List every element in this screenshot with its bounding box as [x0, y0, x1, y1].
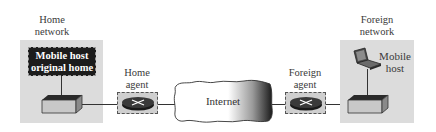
home-network-label: Home network — [20, 14, 84, 38]
home-agent-router-icon — [120, 95, 156, 112]
foreign-switch-icon — [346, 93, 390, 115]
mobile-host-original-home-line2: original home — [29, 62, 95, 74]
home-network-label-line2: network — [20, 26, 84, 38]
home-agent-label-line2: agent — [112, 79, 162, 91]
home-network-label-line1: Home — [20, 14, 84, 26]
foreign-network-label-line2: network — [340, 26, 414, 38]
foreign-agent-label-line2: agent — [280, 79, 330, 91]
home-agent-label-line1: Home — [112, 67, 162, 79]
foreign-agent-label-line1: Foreign — [280, 67, 330, 79]
internet-label: Internet — [198, 95, 248, 107]
foreign-agent-router-icon — [288, 95, 324, 112]
mobile-host-label-line1: Mobile — [379, 50, 411, 62]
home-switch-icon — [40, 93, 84, 115]
mobile-host-label: Mobile host — [379, 50, 411, 74]
home-switch-to-agent-link — [82, 104, 118, 105]
home-agent-label: Home agent — [112, 67, 162, 91]
foreign-agent-label: Foreign agent — [280, 67, 330, 91]
foreign-network-label: Foreign network — [340, 14, 414, 38]
internet-to-foreign-agent-link — [272, 104, 286, 105]
mobile-host-label-line2: host — [379, 62, 411, 74]
mobile-host-original-home-line1: Mobile host — [29, 50, 95, 62]
mobile-host-original-home-box: Mobile host original home — [28, 47, 96, 76]
foreign-network-label-line1: Foreign — [340, 14, 414, 26]
